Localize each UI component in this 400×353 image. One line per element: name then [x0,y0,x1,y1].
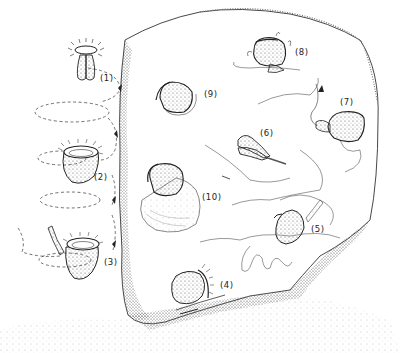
label-stage-9: (9) [204,89,218,99]
label-stage-2: (2) [94,172,108,182]
label-stage-5: (5) [311,224,325,234]
label-stage-6: (6) [260,128,274,138]
label-stage-8: (8) [295,47,309,57]
settlement-illustration [0,0,400,353]
label-stage-3: (3) [104,257,118,267]
larva-stage-1 [68,38,104,80]
label-stage-1: (1) [100,73,114,83]
label-stage-4: (4) [220,280,234,290]
label-stage-7: (7) [340,97,354,107]
label-stage-10: (10) [202,192,221,202]
larva-stage-3 [48,226,103,279]
